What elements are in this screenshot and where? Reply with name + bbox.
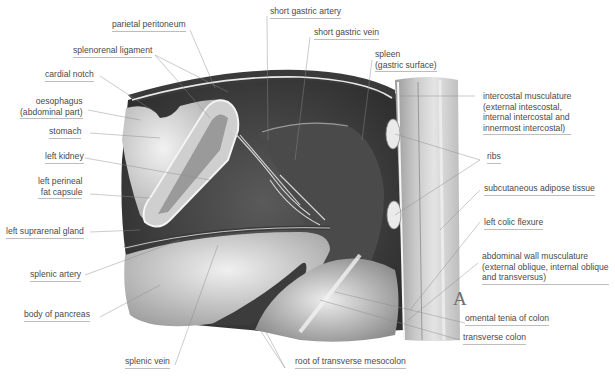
label-body-of-pancreas: body of pancreas <box>24 309 90 322</box>
label-ribs: ribs <box>487 151 501 164</box>
label-splenic-vein: splenic vein <box>125 356 170 369</box>
label-short-gastric-vein: short gastric vein <box>314 27 379 40</box>
rib-shape <box>387 201 401 229</box>
label-abdominal-wall-musculature: abdominal wall musculature (external obl… <box>482 251 609 285</box>
label-left-perineal-fat-capsule: left perineal fat capsule <box>38 176 82 199</box>
label-stomach: stomach <box>49 126 81 139</box>
label-intercostal-musculature: intercostal musculature (external intesc… <box>483 91 571 135</box>
body-wall <box>395 77 460 341</box>
rib-shape <box>386 119 400 149</box>
label-cardial-notch: cardial notch <box>45 69 94 82</box>
label-short-gastric-artery: short gastric artery <box>270 6 341 19</box>
panel-letter: A <box>453 288 467 310</box>
label-transverse-colon: transverse colon <box>463 332 526 345</box>
label-omental-tenia-of-colon: omental tenia of colon <box>465 313 549 326</box>
label-subcutaneous-adipose-tissue: subcutaneous adipose tissue <box>484 183 595 196</box>
anatomy-figure: parietal peritoneum splenorenal ligament… <box>0 0 615 378</box>
label-splenic-artery: splenic artery <box>30 269 81 282</box>
label-spleen: spleen (gastric surface) <box>375 49 437 72</box>
label-oesophagus: oesophagus (abdominal part) <box>20 96 83 119</box>
label-splenorenal-ligament: splenorenal ligament <box>73 45 152 58</box>
label-left-kidney: left kidney <box>45 151 84 164</box>
label-root-of-transverse-mesocolon: root of transverse mesocolon <box>295 356 406 369</box>
label-left-suprarenal-gland: left suprarenal gland <box>6 226 84 239</box>
label-parietal-peritoneum: parietal peritoneum <box>112 19 186 32</box>
label-left-colic-flexure: left colic flexure <box>484 217 543 230</box>
